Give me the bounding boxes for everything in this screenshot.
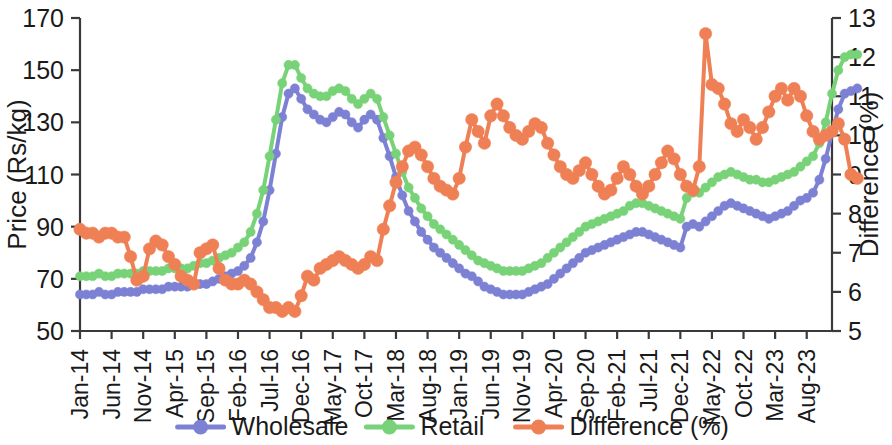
data-point xyxy=(466,114,478,126)
data-point xyxy=(744,121,756,133)
data-point xyxy=(169,258,181,270)
data-point xyxy=(834,105,843,114)
data-point xyxy=(290,60,299,69)
data-point xyxy=(207,239,219,251)
data-point xyxy=(423,235,432,244)
data-point xyxy=(404,206,413,215)
data-point xyxy=(278,79,287,88)
data-point xyxy=(341,86,350,95)
legend-label: Retail xyxy=(420,412,484,440)
data-point xyxy=(548,149,560,161)
data-point xyxy=(297,73,306,82)
data-point xyxy=(289,305,301,317)
data-point xyxy=(782,94,794,106)
data-series xyxy=(74,27,864,317)
x-axis-tick-label: Mar-18 xyxy=(383,349,409,422)
data-point xyxy=(801,110,813,122)
data-point xyxy=(341,110,350,119)
data-point xyxy=(853,84,862,93)
series-retail xyxy=(75,50,861,281)
y-axis-tick-label: 50 xyxy=(36,317,64,345)
data-point xyxy=(687,184,699,196)
data-point xyxy=(821,154,830,163)
chart-figure: 507090110130150170 5678910111213 Jan-14J… xyxy=(0,0,892,445)
x-axis-tick-label: Jun-14 xyxy=(99,349,125,420)
data-point xyxy=(246,253,255,262)
data-point xyxy=(290,84,299,93)
data-point xyxy=(832,117,844,129)
x-axis-tick-label: Jun-19 xyxy=(478,349,504,419)
data-point xyxy=(750,133,762,145)
x-axis-tick-label: Sep-15 xyxy=(193,349,219,423)
legend-swatch-marker xyxy=(531,420,546,435)
data-point xyxy=(453,172,465,184)
data-point xyxy=(815,175,824,184)
y2-axis-title: Difference (%) xyxy=(854,92,884,258)
data-point xyxy=(605,184,617,196)
legend-swatch-marker xyxy=(382,420,397,435)
y2-axis-tick-label: 6 xyxy=(848,278,862,306)
legend-label: Difference (%) xyxy=(570,412,729,440)
x-axis-tick-label: Aug-23 xyxy=(794,349,820,423)
data-point xyxy=(415,149,427,161)
y2-axis-tick-label: 5 xyxy=(848,317,862,345)
data-point xyxy=(265,152,274,161)
data-point xyxy=(379,113,388,122)
x-axis-tick-label: Apr-15 xyxy=(162,349,188,418)
data-point xyxy=(385,131,394,140)
chart-legend: WholesaleRetailDifference (%) xyxy=(178,412,729,440)
data-point xyxy=(586,168,598,180)
data-point xyxy=(410,193,419,202)
y-axis-tick-label: 170 xyxy=(22,4,64,32)
data-point xyxy=(391,149,400,158)
data-point xyxy=(259,217,268,226)
data-point xyxy=(731,125,743,137)
data-point xyxy=(396,160,408,172)
data-point xyxy=(423,212,432,221)
bottom-axis xyxy=(80,331,832,339)
data-point xyxy=(118,231,130,243)
data-point xyxy=(668,153,680,165)
data-point xyxy=(693,160,705,172)
data-point xyxy=(240,238,249,247)
data-point xyxy=(213,262,225,274)
data-point xyxy=(271,115,280,124)
data-point xyxy=(137,270,149,282)
chart-canvas: 507090110130150170 5678910111213 Jan-14J… xyxy=(0,0,892,445)
data-point xyxy=(478,137,490,149)
y2-axis-tick-label: 13 xyxy=(848,4,876,32)
data-point xyxy=(676,214,685,223)
x-axis-tick-label: Nov-14 xyxy=(130,349,156,423)
x-axis-tick-label: Apr-20 xyxy=(541,349,567,418)
data-point xyxy=(308,274,320,286)
x-axis-tick-label: Jul-21 xyxy=(636,349,662,412)
data-point xyxy=(353,123,362,132)
data-point xyxy=(838,133,850,145)
data-point xyxy=(295,290,307,302)
y-axis-tick-label: 150 xyxy=(22,56,64,84)
data-point xyxy=(541,137,553,149)
data-point xyxy=(417,227,426,236)
data-point xyxy=(756,121,768,133)
data-point xyxy=(246,227,255,236)
y-axis-tick-label: 90 xyxy=(36,213,64,241)
data-point xyxy=(808,188,817,197)
data-point xyxy=(674,168,686,180)
data-point xyxy=(649,168,661,180)
data-point xyxy=(377,223,389,235)
data-point xyxy=(252,238,261,247)
data-point xyxy=(718,98,730,110)
data-point xyxy=(372,94,381,103)
data-point xyxy=(624,168,636,180)
data-point xyxy=(398,191,407,200)
data-point xyxy=(535,121,547,133)
data-point xyxy=(447,188,459,200)
data-point xyxy=(712,82,724,94)
data-point xyxy=(459,141,471,153)
data-point xyxy=(421,160,433,172)
data-point xyxy=(417,204,426,213)
legend-label: Wholesale xyxy=(232,412,349,440)
data-point xyxy=(383,200,395,212)
data-point xyxy=(371,254,383,266)
data-point xyxy=(827,89,836,98)
